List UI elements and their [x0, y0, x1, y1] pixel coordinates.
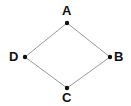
edge-b-c	[67, 57, 110, 88]
edge-a-b	[67, 23, 110, 57]
vertex-label-d: D	[9, 50, 18, 63]
vertex-dot-d	[23, 55, 27, 59]
diagram-canvas: A B C D	[0, 0, 131, 106]
vertex-dot-a	[65, 21, 69, 25]
vertex-label-c: C	[62, 91, 71, 104]
edge-c-d	[25, 57, 67, 88]
vertex-label-b: B	[114, 50, 123, 63]
vertex-label-a: A	[62, 4, 71, 17]
vertex-dot-b	[108, 55, 112, 59]
edge-group	[25, 23, 110, 88]
edge-d-a	[25, 23, 67, 57]
vertex-dot-group	[23, 21, 112, 90]
